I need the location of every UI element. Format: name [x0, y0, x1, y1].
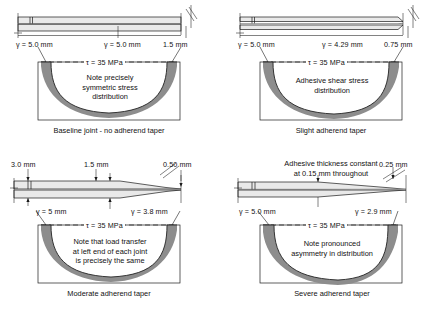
label-thickness-left: 3.0 mm — [11, 160, 36, 169]
panel-baseline: γ = 5.0 mm γ = 5.0 mm 1.5 mm τ = 35 MPa … — [0, 0, 222, 157]
label-left-gamma: γ = 5.0 mm — [238, 40, 275, 49]
left-arrow-down — [26, 177, 29, 181]
panel-caption: Slight adherend taper — [261, 126, 401, 135]
label-tau: τ = 35 MPa — [84, 221, 125, 230]
panel-severe-taper: Adhesive thickness constant at 0.15 mm t… — [222, 157, 444, 314]
break-slash-1 — [186, 9, 194, 21]
label-left-gamma: γ = 5 mm — [36, 207, 67, 216]
note-line-3: distribution — [60, 92, 160, 102]
label-thickness-tip: 0.25 mm — [379, 160, 408, 169]
label-right-gamma: γ = 5.0 mm — [104, 40, 141, 49]
label-thickness-mid: 1.5 mm — [84, 160, 109, 169]
header-arrow — [316, 178, 319, 182]
label-tau: τ = 35 MPa — [306, 221, 347, 230]
lower-adherend — [14, 190, 181, 198]
note-line-1: Adhesive shear stress — [271, 76, 393, 86]
label-right-gamma: γ = 3.8 mm — [131, 207, 168, 216]
mid-arrow-down — [94, 177, 97, 181]
tip-arrow — [179, 183, 182, 187]
lower-adherend — [238, 190, 406, 197]
note-line-1: Note that load transfer — [49, 237, 171, 247]
upper-adherend — [18, 17, 181, 24]
break-slash-1 — [408, 9, 416, 21]
upper-adherend — [240, 17, 403, 22]
label-left-gamma: γ = 5.0 mm — [239, 207, 276, 216]
label-thickness-tip: 0.50 mm — [163, 160, 192, 169]
label-left-gamma: γ = 5.0 mm — [16, 40, 53, 49]
note-line-1: Note precisely — [60, 73, 160, 83]
label-tau: τ = 35 MPa — [84, 58, 125, 67]
note-line-2: asymmetry in distribution — [271, 249, 393, 259]
label-tau: τ = 35 MPa — [306, 58, 347, 67]
label-right-gamma: γ = 2.9 mm — [355, 207, 392, 216]
right-leader — [394, 47, 403, 62]
adhesive-bondline — [240, 23, 403, 24]
label-thickness: 1.5 mm — [163, 40, 188, 49]
note-line-1: Note pronounced — [271, 239, 393, 249]
upper-adherend — [14, 181, 181, 189]
mid-arrow-up — [108, 198, 111, 202]
panel-caption: Moderate adherend taper — [39, 289, 179, 298]
upper-adherend — [238, 182, 406, 189]
note-line-3: is precisely the same — [49, 256, 171, 266]
label-right-gamma: γ = 4.29 mm — [322, 40, 363, 49]
break-slash-2 — [411, 7, 419, 19]
break-slash-2 — [189, 7, 197, 19]
note-line-2: symmetric stress — [60, 83, 160, 93]
panel-moderate-taper: 3.0 mm 1.5 mm 0.50 mm γ = 5 mm γ = 3.8 m… — [0, 157, 222, 314]
left-leader — [38, 47, 46, 62]
right-leader — [172, 47, 181, 62]
left-leader — [260, 47, 268, 62]
header-line-2: at 0.15 mm throughout — [263, 169, 399, 179]
panel-slight-taper: γ = 5.0 mm γ = 4.29 mm 0.75 mm τ = 35 MP… — [222, 0, 444, 157]
mid-arrow-down-2 — [108, 177, 111, 181]
note-line-2: distribution — [271, 86, 393, 96]
right-leader — [172, 211, 180, 225]
note-line-2: at left end of each joint — [49, 247, 171, 257]
lower-adherend — [18, 25, 181, 32]
panel-caption: Baseline joint - no adherend taper — [29, 126, 189, 135]
label-thickness: 0.75 mm — [384, 40, 413, 49]
panel-caption: Severe adherend taper — [264, 289, 400, 298]
lower-adherend — [240, 25, 403, 30]
right-leader — [393, 211, 398, 225]
